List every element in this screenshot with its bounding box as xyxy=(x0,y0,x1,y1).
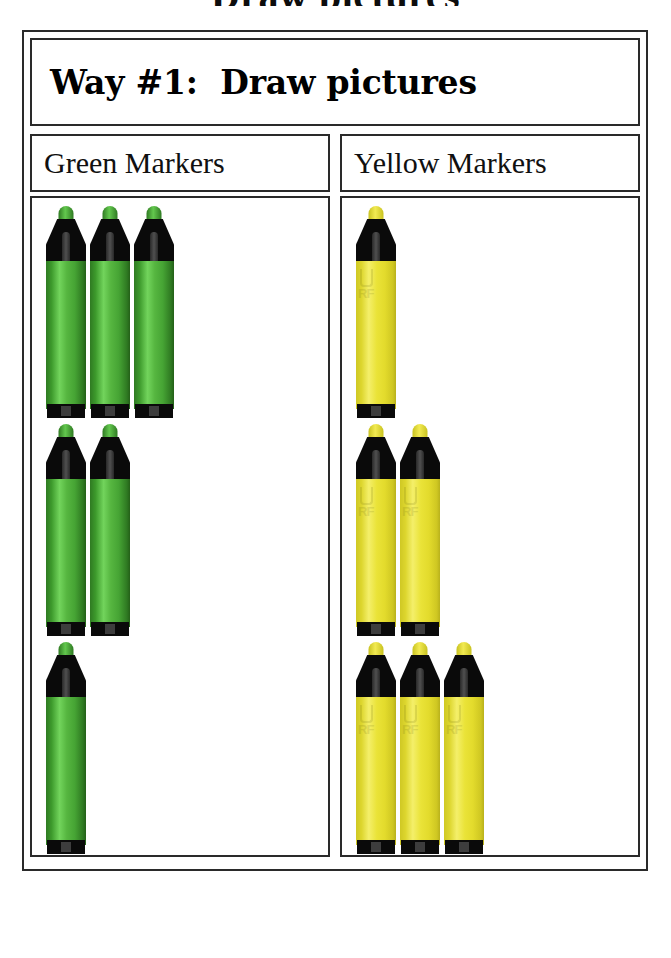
marker-green xyxy=(46,424,86,636)
worksheet-title-cell: Way #1: Draw pictures xyxy=(30,38,640,126)
marker-cap-highlight xyxy=(106,232,114,262)
marker-body xyxy=(46,261,86,409)
marker-row: RF RF xyxy=(356,642,638,854)
marker-cap-highlight xyxy=(106,450,114,480)
marker-base-highlight xyxy=(459,842,469,852)
marker-cap-highlight xyxy=(150,232,158,262)
marker-base-highlight xyxy=(61,624,71,634)
marker-yellow: RF xyxy=(356,206,396,418)
column-green-markers: Green Markers xyxy=(30,134,330,857)
marker-base-highlight xyxy=(61,842,71,852)
marker-base-highlight xyxy=(415,624,425,634)
marker-green xyxy=(90,424,130,636)
marker-yellow: RF xyxy=(444,642,484,854)
marker-watermark-text: RF xyxy=(402,723,417,736)
marker-body xyxy=(90,261,130,409)
marker-body xyxy=(134,261,174,409)
marker-cap-highlight xyxy=(416,450,424,480)
marker-watermark-text: RF xyxy=(402,505,417,518)
column-yellow-markers: Yellow Markers RF xyxy=(340,134,640,857)
column-body-yellow: RF RF xyxy=(340,196,640,857)
marker-yellow: RF xyxy=(400,642,440,854)
marker-body: RF xyxy=(400,697,440,845)
column-header-green: Green Markers xyxy=(30,134,330,192)
page-title: Way #1: Draw pictures xyxy=(50,63,477,102)
marker-base-highlight xyxy=(105,406,115,416)
marker-row xyxy=(46,206,328,418)
marker-green xyxy=(90,206,130,418)
marker-row: RF RF xyxy=(356,424,638,636)
marker-base-highlight xyxy=(371,842,381,852)
marker-row: RF xyxy=(356,206,638,418)
worksheet-frame: Way #1: Draw pictures Green Markers xyxy=(22,30,648,871)
marker-cap-highlight xyxy=(62,668,70,698)
marker-row xyxy=(46,424,328,636)
marker-base-highlight xyxy=(149,406,159,416)
marker-watermark-mark xyxy=(360,705,373,723)
marker-watermark-text: RF xyxy=(446,723,461,736)
column-header-green-label: Green Markers xyxy=(44,146,225,180)
marker-body: RF xyxy=(400,479,440,627)
marker-watermark-text: RF xyxy=(358,723,373,736)
column-header-yellow-label: Yellow Markers xyxy=(354,146,547,180)
marker-watermark-mark xyxy=(448,705,461,723)
marker-base-highlight xyxy=(415,842,425,852)
marker-body xyxy=(46,697,86,845)
marker-green xyxy=(46,206,86,418)
marker-cap-highlight xyxy=(372,668,380,698)
marker-watermark-text: RF xyxy=(358,505,373,518)
marker-row xyxy=(46,642,328,854)
marker-body: RF xyxy=(356,697,396,845)
marker-cap-highlight xyxy=(62,450,70,480)
clipped-heading-text: Draw pictures xyxy=(0,0,671,6)
marker-body: RF xyxy=(356,479,396,627)
marker-columns: Green Markers xyxy=(30,134,640,857)
marker-yellow: RF xyxy=(400,424,440,636)
column-body-green xyxy=(30,196,330,857)
marker-cap-highlight xyxy=(460,668,468,698)
marker-base-highlight xyxy=(61,406,71,416)
marker-green xyxy=(46,642,86,854)
marker-watermark-mark xyxy=(360,487,373,505)
marker-watermark-text: RF xyxy=(358,287,373,300)
marker-watermark-mark xyxy=(404,487,417,505)
marker-cap-highlight xyxy=(372,232,380,262)
marker-yellow: RF xyxy=(356,642,396,854)
marker-body xyxy=(46,479,86,627)
marker-base-highlight xyxy=(371,406,381,416)
marker-cap-highlight xyxy=(62,232,70,262)
marker-cap-highlight xyxy=(416,668,424,698)
marker-body: RF xyxy=(444,697,484,845)
column-header-yellow: Yellow Markers xyxy=(340,134,640,192)
marker-body xyxy=(90,479,130,627)
clipped-heading-above: Draw pictures xyxy=(0,0,671,6)
marker-base-highlight xyxy=(371,624,381,634)
marker-body: RF xyxy=(356,261,396,409)
marker-watermark-mark xyxy=(360,269,373,287)
marker-yellow: RF xyxy=(356,424,396,636)
marker-base-highlight xyxy=(105,624,115,634)
marker-green xyxy=(134,206,174,418)
marker-cap-highlight xyxy=(372,450,380,480)
marker-watermark-mark xyxy=(404,705,417,723)
